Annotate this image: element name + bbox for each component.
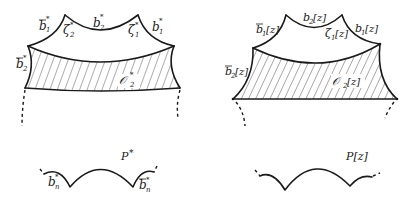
svg-text:n: n [146, 186, 151, 194]
svg-text:*: * [129, 148, 134, 158]
label-b2bar-z: b 2 [z] [225, 65, 248, 80]
label-zeta1-star: ζ * 1 [128, 21, 139, 39]
dashed-tail-right-z [385, 102, 394, 118]
label-region-o2-z: 𝒪 2 [z] [331, 74, 365, 90]
svg-text:*: * [70, 21, 74, 29]
caption-p-star: P * [120, 148, 134, 163]
labels-p-star: b * 1 ζ * 2 b * 2 ζ * 1 b * 1 b * [16, 13, 163, 194]
label-b2bar-star: b * 2 [16, 54, 28, 73]
diagram-canvas: b * 1 ζ * 2 b * 2 ζ * 1 b * 1 b * [0, 0, 414, 206]
svg-text:[z]: [z] [235, 66, 248, 77]
svg-text:[z]: [z] [266, 24, 279, 35]
svg-text:*: * [146, 176, 150, 184]
dashed-tail-right [177, 90, 180, 118]
svg-text:[z]: [z] [335, 28, 348, 39]
svg-text:1: 1 [46, 26, 50, 34]
bottom-dash-left [40, 169, 44, 174]
dashed-tail-left-z [236, 102, 245, 126]
bottom-dash-left-z [255, 170, 260, 176]
svg-text:*: * [23, 54, 27, 62]
label-b2-star: b * 2 [93, 13, 105, 32]
svg-text:n: n [55, 183, 60, 191]
svg-text:P[z]: P[z] [345, 150, 368, 163]
polygon-p-star [20, 15, 185, 187]
hatched-region-o2-star [20, 40, 185, 95]
svg-text:2: 2 [129, 81, 135, 89]
svg-text:1: 1 [159, 28, 163, 36]
svg-text:*: * [46, 15, 50, 23]
label-b1bar-star: b * 1 [39, 15, 50, 34]
svg-text:[z]: [z] [347, 76, 360, 87]
label-b1-z: b 1 [z] [355, 22, 378, 37]
svg-text:*: * [100, 13, 104, 21]
dashed-tail-left [22, 90, 25, 126]
label-bnbar-star: b * n [139, 176, 151, 194]
label-bn-star: b * n [48, 173, 60, 191]
svg-text:2: 2 [22, 65, 28, 73]
svg-text:*: * [55, 173, 59, 181]
svg-text:2: 2 [69, 31, 75, 39]
label-zeta2-star: ζ * 2 [63, 21, 75, 39]
svg-text:[z]: [z] [313, 12, 326, 23]
caption-p-z: P[z] [345, 150, 368, 163]
svg-text:*: * [130, 71, 134, 79]
bottom-arc-z [260, 169, 372, 190]
label-zeta1-z: ζ 1 [z] [325, 27, 348, 42]
bottom-dash-right-z [373, 173, 380, 176]
label-b1-star: b * 1 [152, 17, 163, 36]
svg-text:1: 1 [135, 31, 139, 39]
bottom-dash-right [154, 166, 157, 172]
label-b2-z: b 2 [z] [303, 11, 326, 26]
svg-text:2: 2 [99, 24, 105, 32]
svg-text:P: P [120, 150, 129, 163]
polygon-p-z [230, 15, 400, 190]
svg-text:*: * [135, 21, 139, 29]
svg-text:*: * [159, 17, 163, 25]
bottom-arc [44, 170, 154, 188]
svg-text:[z]: [z] [365, 23, 378, 34]
